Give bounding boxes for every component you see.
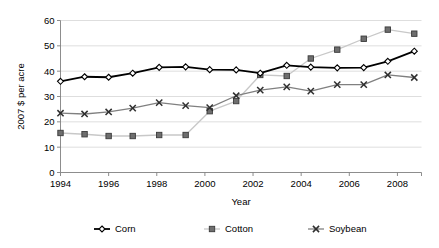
datapoint-cotton-11 xyxy=(335,47,340,52)
legend-marker-corn xyxy=(99,226,105,232)
datapoint-cotton-0 xyxy=(58,130,63,135)
y-tick-label-30: 30 xyxy=(44,91,55,102)
datapoint-corn-14 xyxy=(411,48,417,54)
datapoint-corn-13 xyxy=(385,58,391,64)
datapoint-corn-6 xyxy=(207,67,213,73)
datapoint-corn-1 xyxy=(82,74,88,80)
x-tick-label-2002: 2002 xyxy=(242,178,263,189)
datapoint-cotton-13 xyxy=(385,27,390,32)
y-tick-label-40: 40 xyxy=(44,66,55,77)
x-tick-label-2004: 2004 xyxy=(291,178,312,189)
legend-label-corn: Corn xyxy=(115,223,136,234)
y-tick-label-0: 0 xyxy=(49,167,54,178)
datapoint-cotton-12 xyxy=(361,36,366,41)
datapoint-cotton-1 xyxy=(82,132,87,137)
x-tick-label-2008: 2008 xyxy=(387,178,408,189)
datapoint-corn-9 xyxy=(284,62,290,68)
y-tick-label-60: 60 xyxy=(44,15,55,26)
x-tick-label-1994: 1994 xyxy=(50,178,71,189)
x-axis-tick-labels: 19941996199820002002200420062008 xyxy=(50,178,408,189)
datapoint-cotton-7 xyxy=(233,98,238,103)
x-tick-label-2006: 2006 xyxy=(339,178,360,189)
legend-item-cotton[interactable]: Cotton xyxy=(204,223,253,234)
x-tick-label-1998: 1998 xyxy=(146,178,167,189)
datapoint-cotton-2 xyxy=(106,133,111,138)
series-soybean xyxy=(57,72,417,117)
x-tick-label-1996: 1996 xyxy=(98,178,119,189)
datapoint-cotton-9 xyxy=(284,73,289,78)
legend-label-soybean: Soybean xyxy=(329,223,367,234)
series-corn xyxy=(58,48,418,84)
x-axis-title: Year xyxy=(231,196,250,207)
y-axis-title: 2007 $ per acre xyxy=(15,63,26,130)
datapoint-cotton-4 xyxy=(156,132,161,137)
datapoint-cotton-14 xyxy=(412,31,417,36)
datapoint-corn-0 xyxy=(58,78,64,84)
line-chart: 0102030405060 19941996199820002002200420… xyxy=(0,0,439,248)
datapoint-corn-2 xyxy=(106,74,112,80)
datapoint-corn-12 xyxy=(361,65,367,71)
x-tick-label-2000: 2000 xyxy=(194,178,215,189)
legend-item-soybean[interactable]: Soybean xyxy=(308,223,367,234)
legend-item-corn[interactable]: Corn xyxy=(94,223,136,234)
y-tick-label-10: 10 xyxy=(44,142,55,153)
legend-marker-cotton xyxy=(209,226,214,231)
legend-label-cotton: Cotton xyxy=(225,223,253,234)
datapoint-cotton-3 xyxy=(130,133,135,138)
datapoint-cotton-5 xyxy=(183,132,188,137)
chart-legend: CornCottonSoybean xyxy=(94,223,367,234)
datapoint-corn-10 xyxy=(308,64,314,70)
datapoint-corn-4 xyxy=(156,64,162,70)
datapoint-corn-5 xyxy=(183,64,189,70)
datapoint-cotton-10 xyxy=(308,56,313,61)
datapoint-corn-11 xyxy=(334,65,340,71)
y-tick-label-20: 20 xyxy=(44,116,55,127)
series-line-corn xyxy=(61,51,415,81)
y-axis-tick-labels: 0102030405060 xyxy=(44,15,55,178)
chart-container: 0102030405060 19941996199820002002200420… xyxy=(0,0,439,248)
y-tick-label-50: 50 xyxy=(44,40,55,51)
datapoint-corn-7 xyxy=(233,67,239,73)
